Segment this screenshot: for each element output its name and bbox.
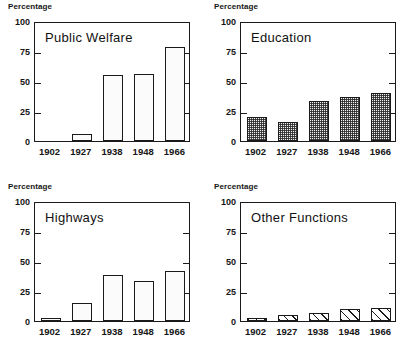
y-tick-label: 50 — [226, 258, 236, 267]
y-tick-label: 100 — [15, 198, 30, 207]
x-tick-label: 1948 — [133, 326, 154, 338]
x-tick-label: 1902 — [39, 146, 60, 158]
y-axis-caption: Percentage — [8, 2, 52, 12]
plot-area: Education — [240, 22, 396, 142]
y-tick-label: 25 — [226, 108, 236, 117]
chart-panel-3: Percentage0255075100Other Functions19021… — [206, 180, 412, 360]
bar — [72, 134, 92, 141]
y-tick-label: 0 — [231, 318, 236, 327]
y-tick-label: 25 — [226, 288, 236, 297]
y-axis-caption: Percentage — [214, 2, 258, 12]
bar — [165, 271, 185, 321]
bar-series — [35, 23, 189, 141]
y-axis-labels: 0255075100 — [206, 202, 236, 322]
x-tick-label: 1927 — [70, 326, 91, 338]
bar — [165, 47, 185, 141]
y-tick-label: 100 — [15, 18, 30, 27]
x-axis-labels: 19021927193819481966 — [34, 326, 190, 342]
y-axis-caption: Percentage — [214, 182, 258, 192]
x-tick-label: 1927 — [70, 146, 91, 158]
bar — [278, 122, 298, 141]
bar — [103, 275, 123, 321]
y-tick-label: 75 — [226, 228, 236, 237]
bar — [371, 93, 391, 141]
x-tick-label: 1966 — [164, 146, 185, 158]
chart-panel-0: Percentage0255075100Public Welfare190219… — [0, 0, 206, 180]
y-tick-label: 0 — [231, 138, 236, 147]
x-tick-label: 1948 — [339, 146, 360, 158]
bar — [340, 309, 360, 321]
y-tick-label: 75 — [20, 228, 30, 237]
x-tick-label: 1902 — [245, 326, 266, 338]
bar — [309, 313, 329, 321]
x-tick-label: 1902 — [245, 146, 266, 158]
y-tick-label: 25 — [20, 108, 30, 117]
y-axis-labels: 0255075100 — [0, 22, 30, 142]
y-tick-label: 0 — [25, 138, 30, 147]
x-axis-labels: 19021927193819481966 — [240, 146, 396, 162]
plot-area: Other Functions — [240, 202, 396, 322]
x-tick-label: 1938 — [307, 326, 328, 338]
y-tick-label: 75 — [20, 48, 30, 57]
y-tick-label: 100 — [221, 18, 236, 27]
chart-panel-2: Percentage0255075100Highways190219271938… — [0, 180, 206, 360]
y-tick-label: 50 — [20, 78, 30, 87]
y-tick-label: 25 — [20, 288, 30, 297]
bar — [134, 74, 154, 141]
x-tick-label: 1938 — [101, 326, 122, 338]
plot-area: Public Welfare — [34, 22, 190, 142]
y-axis-labels: 0255075100 — [206, 22, 236, 142]
bar-series — [241, 203, 395, 321]
x-tick-label: 1966 — [370, 326, 391, 338]
x-tick-label: 1927 — [276, 146, 297, 158]
x-tick-label: 1938 — [307, 146, 328, 158]
bar — [72, 303, 92, 321]
bar — [134, 281, 154, 321]
x-tick-label: 1927 — [276, 326, 297, 338]
bar — [247, 318, 267, 321]
bar-series — [241, 23, 395, 141]
x-tick-label: 1966 — [164, 326, 185, 338]
bar — [278, 315, 298, 321]
plot-area: Highways — [34, 202, 190, 322]
chart-panel-1: Percentage0255075100Education19021927193… — [206, 0, 412, 180]
x-tick-label: 1902 — [39, 326, 60, 338]
y-tick-label: 0 — [25, 318, 30, 327]
bar — [371, 308, 391, 321]
y-axis-caption: Percentage — [8, 182, 52, 192]
figure-grid: Percentage0255075100Public Welfare190219… — [0, 0, 412, 360]
bar — [41, 318, 61, 321]
x-axis-labels: 19021927193819481966 — [240, 326, 396, 342]
x-tick-label: 1948 — [339, 326, 360, 338]
bar — [247, 117, 267, 141]
x-tick-label: 1948 — [133, 146, 154, 158]
bar-series — [35, 203, 189, 321]
bar — [103, 75, 123, 141]
y-tick-label: 75 — [226, 48, 236, 57]
x-axis-labels: 19021927193819481966 — [34, 146, 190, 162]
bar — [309, 101, 329, 141]
y-axis-labels: 0255075100 — [0, 202, 30, 322]
y-tick-label: 50 — [226, 78, 236, 87]
x-tick-label: 1938 — [101, 146, 122, 158]
bar — [340, 97, 360, 141]
x-tick-label: 1966 — [370, 146, 391, 158]
y-tick-label: 100 — [221, 198, 236, 207]
y-tick-label: 50 — [20, 258, 30, 267]
